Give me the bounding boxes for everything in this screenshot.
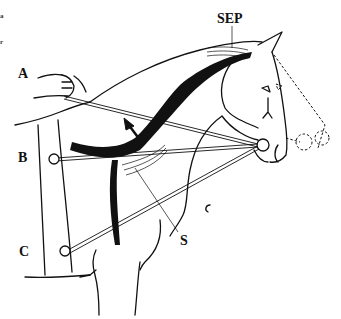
label-c: C (19, 245, 29, 259)
dashed-muzzle-1 (296, 134, 312, 150)
label-a: A (18, 67, 28, 81)
edge-text-2: r (0, 38, 3, 46)
arrow (124, 118, 140, 140)
dashed-head-outline (274, 55, 325, 148)
label-s: S (180, 234, 188, 248)
chest (140, 220, 160, 270)
label-b: B (18, 151, 27, 165)
hand (62, 75, 74, 98)
edge-text-1: a (0, 12, 4, 20)
sep-striations (207, 47, 248, 58)
chin (254, 150, 268, 162)
eye (262, 86, 270, 92)
right-foreleg (135, 262, 140, 315)
lower-muscle-band (110, 160, 120, 245)
elbow-detail (206, 205, 210, 212)
ring-c (60, 246, 70, 256)
dashed-nose (286, 138, 300, 142)
horse-illustration: A B C SEP S a r (0, 0, 341, 319)
s-pointer (135, 168, 178, 232)
back-line (15, 102, 90, 125)
girth-left (38, 125, 45, 275)
left-foreleg (93, 250, 99, 315)
neck-muscle-band (70, 52, 252, 158)
rein-end (74, 76, 86, 92)
horse-drawing (0, 0, 341, 319)
rein-c (68, 146, 259, 253)
cheek (221, 62, 258, 128)
throat (170, 116, 258, 236)
dashed-muzzle-2 (315, 131, 329, 145)
muzzle-curve (275, 145, 278, 162)
ring-b (49, 154, 59, 164)
nostril-detail (263, 98, 272, 118)
arm (34, 74, 68, 98)
label-sep: SEP (217, 12, 243, 26)
face-front (270, 52, 287, 162)
